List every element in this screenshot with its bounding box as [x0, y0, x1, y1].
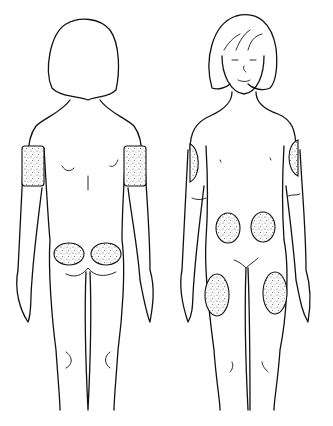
front-hair: [209, 15, 277, 90]
site-left-abdomen: [251, 212, 275, 242]
back-knees: [66, 352, 110, 368]
back-buttock-crease: [66, 268, 116, 276]
front-groin: [234, 258, 258, 268]
site-right-upper-arm-back: [22, 146, 44, 186]
back-shoulder-blades: [62, 160, 118, 190]
site-left-buttock: [54, 243, 84, 265]
site-right-thigh: [205, 274, 229, 316]
site-left-upper-arm-front: [289, 140, 298, 176]
front-view-figure: [181, 15, 310, 410]
back-view-figure: [17, 19, 153, 410]
site-right-buttock: [91, 243, 121, 265]
site-left-upper-arm-back: [124, 146, 146, 186]
front-chest: [192, 158, 300, 200]
injection-sites-back: [22, 146, 146, 265]
front-bangs: [224, 30, 262, 50]
injection-sites-illustration: [0, 0, 333, 426]
front-neck-shoulders: [190, 92, 296, 150]
site-right-abdomen: [216, 213, 240, 243]
back-hair: [48, 19, 118, 100]
front-facial-features: [232, 60, 256, 82]
front-inner-legs: [245, 268, 250, 410]
front-face: [222, 56, 264, 94]
front-knees: [230, 362, 268, 372]
back-torso-right: [114, 148, 126, 410]
back-torso-left: [44, 148, 60, 410]
site-left-thigh: [263, 272, 287, 314]
back-inner-legs: [85, 272, 91, 410]
site-right-upper-arm-front: [190, 144, 198, 182]
